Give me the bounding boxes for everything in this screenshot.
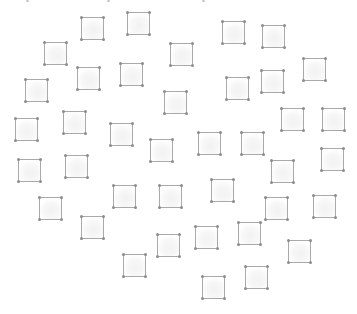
corner-handle-icon[interactable] [261, 46, 264, 49]
square-node[interactable] [241, 132, 264, 155]
square-node[interactable] [288, 240, 311, 263]
corner-handle-icon[interactable] [283, 24, 286, 27]
corner-handle-icon[interactable] [266, 265, 269, 268]
square-node[interactable] [195, 226, 218, 249]
square-node[interactable] [120, 63, 143, 86]
corner-handle-icon[interactable] [39, 180, 42, 183]
square-node[interactable] [81, 216, 104, 239]
corner-handle-icon[interactable] [280, 107, 283, 110]
square-node[interactable] [322, 108, 345, 131]
corner-handle-icon[interactable] [219, 153, 222, 156]
corner-handle-icon[interactable] [232, 178, 235, 181]
corner-handle-icon[interactable] [321, 129, 324, 132]
corner-handle-icon[interactable] [240, 131, 243, 134]
square-node[interactable] [222, 21, 245, 44]
corner-handle-icon[interactable] [60, 218, 63, 221]
square-node[interactable] [113, 185, 136, 208]
corner-handle-icon[interactable] [109, 122, 112, 125]
corner-handle-icon[interactable] [180, 184, 183, 187]
corner-handle-icon[interactable] [223, 297, 226, 300]
square-node[interactable] [198, 132, 221, 155]
square-node[interactable] [150, 139, 173, 162]
corner-handle-icon[interactable] [14, 139, 17, 142]
corner-handle-icon[interactable] [141, 62, 144, 65]
corner-handle-icon[interactable] [266, 287, 269, 290]
corner-handle-icon[interactable] [270, 159, 273, 162]
corner-handle-icon[interactable] [131, 122, 134, 125]
corner-handle-icon[interactable] [149, 138, 152, 141]
corner-handle-icon[interactable] [232, 200, 235, 203]
corner-handle-icon[interactable] [283, 46, 286, 49]
corner-handle-icon[interactable] [102, 38, 105, 41]
corner-handle-icon[interactable] [64, 176, 67, 179]
corner-handle-icon[interactable] [197, 131, 200, 134]
corner-handle-icon[interactable] [244, 287, 247, 290]
corner-handle-icon[interactable] [38, 218, 41, 221]
corner-handle-icon[interactable] [191, 42, 194, 45]
corner-handle-icon[interactable] [280, 129, 283, 132]
corner-handle-icon[interactable] [148, 33, 151, 36]
corner-handle-icon[interactable] [62, 110, 65, 113]
square-node[interactable] [63, 111, 86, 134]
corner-handle-icon[interactable] [292, 181, 295, 184]
corner-handle-icon[interactable] [102, 16, 105, 19]
corner-handle-icon[interactable] [43, 63, 46, 66]
corner-handle-icon[interactable] [343, 129, 346, 132]
corner-handle-icon[interactable] [169, 42, 172, 45]
corner-handle-icon[interactable] [36, 117, 39, 120]
square-node[interactable] [157, 234, 180, 257]
square-node[interactable] [65, 155, 88, 178]
corner-handle-icon[interactable] [46, 100, 49, 103]
corner-handle-icon[interactable] [312, 216, 315, 219]
corner-handle-icon[interactable] [36, 139, 39, 142]
square-node[interactable] [281, 108, 304, 131]
corner-handle-icon[interactable] [302, 129, 305, 132]
square-node[interactable] [271, 160, 294, 183]
corner-handle-icon[interactable] [126, 11, 129, 14]
corner-handle-icon[interactable] [321, 107, 324, 110]
corner-handle-icon[interactable] [237, 221, 240, 224]
corner-handle-icon[interactable] [210, 200, 213, 203]
square-node[interactable] [164, 91, 187, 114]
corner-handle-icon[interactable] [84, 132, 87, 135]
square-node[interactable] [262, 25, 285, 48]
square-node[interactable] [321, 148, 344, 171]
corner-handle-icon[interactable] [109, 144, 112, 147]
corner-handle-icon[interactable] [39, 158, 42, 161]
square-node[interactable] [202, 276, 225, 299]
corner-handle-icon[interactable] [126, 33, 129, 36]
corner-handle-icon[interactable] [194, 225, 197, 228]
corner-handle-icon[interactable] [158, 184, 161, 187]
corner-handle-icon[interactable] [292, 159, 295, 162]
corner-handle-icon[interactable] [201, 297, 204, 300]
corner-handle-icon[interactable] [86, 176, 89, 179]
square-node[interactable] [18, 159, 41, 182]
corner-handle-icon[interactable] [149, 160, 152, 163]
corner-handle-icon[interactable] [221, 20, 224, 23]
corner-handle-icon[interactable] [163, 90, 166, 93]
corner-handle-icon[interactable] [134, 184, 137, 187]
corner-handle-icon[interactable] [197, 153, 200, 156]
corner-handle-icon[interactable] [259, 243, 262, 246]
corner-handle-icon[interactable] [261, 24, 264, 27]
corner-handle-icon[interactable] [320, 169, 323, 172]
corner-handle-icon[interactable] [221, 42, 224, 45]
corner-handle-icon[interactable] [17, 158, 20, 161]
corner-handle-icon[interactable] [243, 20, 246, 23]
corner-handle-icon[interactable] [343, 107, 346, 110]
corner-handle-icon[interactable] [243, 42, 246, 45]
corner-handle-icon[interactable] [14, 117, 17, 120]
corner-handle-icon[interactable] [191, 64, 194, 67]
corner-handle-icon[interactable] [216, 225, 219, 228]
corner-handle-icon[interactable] [80, 237, 83, 240]
corner-handle-icon[interactable] [122, 253, 125, 256]
corner-handle-icon[interactable] [287, 239, 290, 242]
corner-handle-icon[interactable] [244, 265, 247, 268]
corner-handle-icon[interactable] [122, 275, 125, 278]
corner-handle-icon[interactable] [309, 261, 312, 264]
corner-handle-icon[interactable] [282, 69, 285, 72]
corner-handle-icon[interactable] [64, 154, 67, 157]
square-node[interactable] [211, 179, 234, 202]
corner-handle-icon[interactable] [302, 79, 305, 82]
corner-handle-icon[interactable] [163, 112, 166, 115]
